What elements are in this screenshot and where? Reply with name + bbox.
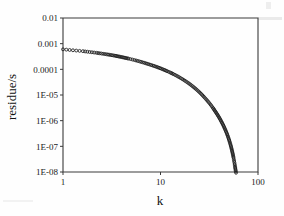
data-point: [78, 49, 81, 52]
y-tick-label: 1E-08: [36, 167, 58, 177]
data-point: [75, 49, 78, 52]
data-point: [68, 49, 71, 52]
x-axis-ticks: 110100: [61, 172, 266, 187]
y-tick-label: 0.01: [42, 13, 58, 23]
figure-canvas: 0.010.0010.00011E-051E-061E-071E-08 1101…: [0, 0, 284, 216]
y-tick-label: 1E-06: [36, 116, 58, 126]
log-log-scatter-chart: 0.010.0010.00011E-051E-061E-071E-08 1101…: [0, 0, 284, 216]
x-tick-label: 100: [251, 177, 265, 187]
y-tick-label: 0.001: [38, 39, 58, 49]
y-tick-label: 1E-07: [36, 142, 58, 152]
y-axis-ticks: 0.010.0010.00011E-051E-061E-071E-08: [33, 13, 63, 177]
x-tick-label: 10: [156, 177, 166, 187]
x-tick-label: 1: [61, 177, 66, 187]
y-tick-label: 1E-05: [36, 90, 58, 100]
axis-frame: [63, 18, 258, 172]
data-point: [65, 48, 68, 51]
plot-frame: [63, 18, 258, 172]
y-tick-label: 0.0001: [33, 65, 58, 75]
y-axis-title: residue/s: [4, 74, 19, 120]
data-point: [72, 49, 75, 52]
data-point-series: [62, 48, 238, 174]
x-axis-title: k: [157, 193, 164, 208]
